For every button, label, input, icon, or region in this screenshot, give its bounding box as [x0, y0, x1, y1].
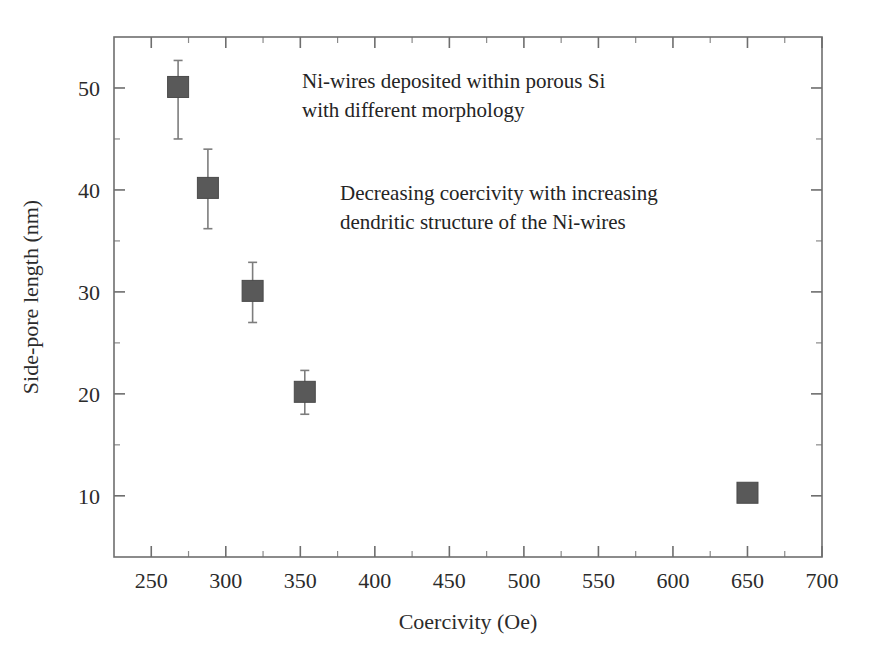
y-tick-label: 20	[78, 382, 100, 407]
x-tick-label: 450	[433, 568, 466, 593]
x-tick-label: 700	[806, 568, 839, 593]
figure-container: 250300350400450500550600650700 102030405…	[0, 0, 874, 651]
data-marker	[242, 280, 263, 301]
annotation-line: Decreasing coercivity with increasing	[340, 181, 658, 205]
x-tick-label: 300	[209, 568, 242, 593]
annotation-line: Ni-wires deposited within porous Si	[302, 69, 605, 93]
x-axis-title: Coercivity (Oe)	[399, 609, 538, 634]
annotation-line: dendritic structure of the Ni-wires	[340, 210, 626, 234]
y-tick-label: 50	[78, 76, 100, 101]
data-marker	[197, 177, 218, 198]
x-tick-label: 550	[582, 568, 615, 593]
x-tick-label: 650	[731, 568, 764, 593]
x-tick-label: 600	[656, 568, 689, 593]
y-tick-label: 10	[78, 484, 100, 509]
data-marker	[168, 76, 189, 97]
x-tick-label: 500	[507, 568, 540, 593]
x-tick-label: 250	[135, 568, 168, 593]
x-tick-label: 350	[284, 568, 317, 593]
scatter-plot: 250300350400450500550600650700 102030405…	[0, 0, 874, 651]
y-tick-label: 40	[78, 178, 100, 203]
annotation-line: with different morphology	[302, 98, 525, 122]
y-tick-label: 30	[78, 280, 100, 305]
y-axis-title: Side-pore length (nm)	[18, 200, 43, 394]
data-marker	[294, 381, 315, 402]
data-point	[737, 482, 758, 503]
data-marker	[737, 482, 758, 503]
x-tick-label: 400	[358, 568, 391, 593]
